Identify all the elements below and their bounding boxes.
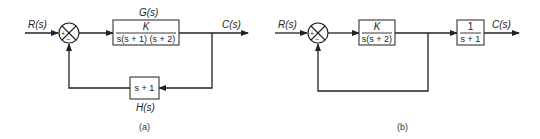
input-label-r: R(s) (28, 19, 47, 30)
output-label-c: C(s) (492, 19, 511, 30)
block-diagram-canvas: R(s) + − G(s) K s(s + 1) (s + 2) C(s) s … (0, 0, 540, 139)
output-label-c: C(s) (222, 19, 241, 30)
caption-a: (a) (139, 122, 150, 132)
plus-sign: + (61, 30, 65, 37)
forward-block-denominator: s(s + 2) (362, 34, 392, 44)
feedback-block-name: H(s) (136, 102, 155, 113)
feedback-block-expression: s + 1 (135, 83, 155, 93)
input-label-r: R(s) (278, 19, 297, 30)
plus-sign: + (310, 30, 314, 37)
caption-b: (b) (397, 122, 408, 132)
minus-sign: − (66, 36, 70, 43)
summing-junction: + − (59, 23, 79, 43)
feedback-path-to-junction (69, 44, 130, 88)
forward-block-name: G(s) (139, 7, 158, 18)
summing-junction: + − (308, 23, 328, 43)
forward-block-denominator: s(s + 1) (s + 2) (117, 34, 176, 44)
output-block-numerator: 1 (468, 21, 474, 32)
diagram-a: R(s) + − G(s) K s(s + 1) (s + 2) C(s) s … (25, 7, 248, 132)
output-block-denominator: s + 1 (461, 34, 481, 44)
minus-sign: − (315, 36, 319, 43)
diagram-b: R(s) + − K s(s + 2) 1 s + 1 C(s) (b) (275, 19, 519, 132)
